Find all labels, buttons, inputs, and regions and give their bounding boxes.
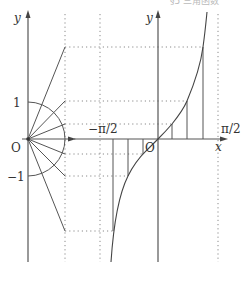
right-y-axis-label: y bbox=[145, 11, 153, 25]
angle-ray bbox=[28, 47, 65, 139]
right-origin-label: O bbox=[145, 141, 155, 155]
tangent-curve bbox=[111, 12, 207, 262]
right-y-axis-arrow-icon bbox=[156, 10, 161, 18]
tangent-construction-diagram: §5 三角函数 y 1 −1 O x y −π/2 π/2 O bbox=[0, 0, 251, 282]
pos-half-pi-label: π/2 bbox=[221, 122, 241, 136]
neg-half-pi-label: −π/2 bbox=[88, 122, 118, 136]
left-y-axis-arrow-icon bbox=[26, 10, 31, 18]
right-x-axis-label: x bbox=[215, 140, 222, 154]
tick-one-label: 1 bbox=[13, 96, 21, 110]
angle-ray bbox=[28, 139, 65, 176]
left-origin-label: O bbox=[11, 141, 21, 155]
cropped-header-text: §5 三角函数 bbox=[170, 0, 219, 6]
left-y-axis-label: y bbox=[13, 11, 21, 25]
angle-ray bbox=[28, 139, 65, 231]
origin-point bbox=[26, 137, 30, 141]
tick-neg-one-label: −1 bbox=[7, 170, 25, 184]
